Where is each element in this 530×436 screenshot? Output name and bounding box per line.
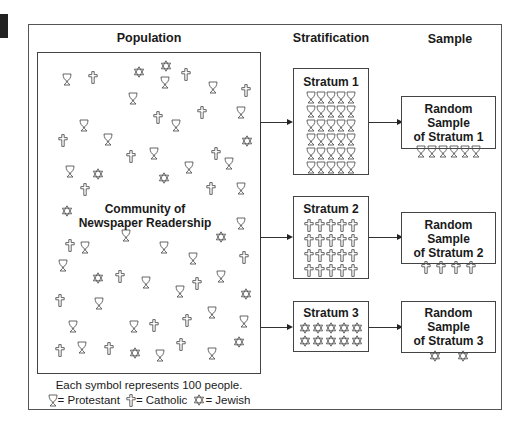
- jewish-star-icon: [92, 272, 104, 284]
- jewish-star-icon: [338, 322, 351, 335]
- sample-2-symbols: [402, 261, 495, 274]
- sample-1-line1: Random Sample: [402, 102, 495, 130]
- catholic-cross-icon: [348, 249, 359, 264]
- catholic-cross-icon: [304, 249, 315, 264]
- sample-1-line2: of Stratum 1: [402, 130, 495, 144]
- catholic-cross-icon: [80, 183, 90, 196]
- catholic-cross-icon: [104, 342, 114, 355]
- population-heading: Population: [37, 31, 261, 45]
- protestant-goblet-icon: [94, 297, 104, 310]
- protestant-goblet-icon: [306, 147, 316, 161]
- sample-2-line2: of Stratum 2: [402, 246, 495, 260]
- catholic-cross-icon: [239, 251, 249, 264]
- protestant-goblet-icon: [316, 133, 326, 147]
- protestant-goblet-icon: [326, 105, 336, 119]
- jewish-star-icon: [325, 322, 338, 335]
- protestant-goblet-icon: [306, 91, 316, 105]
- protestant-goblet-icon: [171, 119, 181, 132]
- catholic-cross-icon: [153, 111, 163, 124]
- catholic-cross-icon: [337, 219, 348, 234]
- catholic-cross-icon: [211, 147, 221, 160]
- catholic-cross-icon: [206, 182, 216, 195]
- branch-connector: [260, 122, 261, 328]
- protestant-goblet-icon: [346, 133, 356, 147]
- protestant-goblet-icon: [103, 133, 113, 146]
- catholic-cross-icon: [315, 234, 326, 249]
- catholic-cross-icon: [348, 234, 359, 249]
- catholic-cross-icon: [315, 249, 326, 264]
- protestant-goblet-icon: [336, 105, 346, 119]
- legend-items: = Protestant= Catholic= Jewish: [37, 393, 261, 407]
- sample-heading: Sample: [400, 32, 500, 46]
- stratum-1-symbols: [294, 91, 368, 175]
- protestant-goblet-icon: [316, 119, 326, 133]
- catholic-cross-icon: [326, 264, 337, 279]
- catholic-cross-icon: [326, 234, 337, 249]
- legend: Each symbol represents 100 people. = Pro…: [37, 378, 261, 407]
- protestant-goblet-icon: [175, 285, 185, 298]
- jewish-star-icon: [457, 350, 469, 362]
- protestant-goblet-icon: [62, 73, 72, 86]
- catholic-cross-icon: [126, 150, 136, 163]
- jewish-star-icon: [351, 322, 364, 335]
- protestant-goblet-icon: [80, 241, 90, 254]
- protestant-goblet-icon: [326, 133, 336, 147]
- protestant-goblet-icon: [128, 92, 138, 105]
- stratum-2-box: Stratum 2: [293, 196, 369, 279]
- protestant-goblet-icon: [216, 270, 226, 283]
- arrow-to-stratum-1: [260, 122, 287, 123]
- sample-1-symbols: [402, 145, 495, 158]
- catholic-cross-icon: [348, 219, 359, 234]
- protestant-goblet-icon: [236, 217, 246, 230]
- protestant-goblet-icon: [460, 145, 470, 158]
- protestant-goblet-icon: [326, 147, 336, 161]
- legend-item-label: = Protestant: [58, 393, 120, 407]
- protestant-goblet-icon: [207, 347, 217, 360]
- jewish-star-icon: [193, 394, 205, 406]
- protestant-goblet-icon: [224, 157, 234, 170]
- catholic-cross-icon: [176, 338, 186, 351]
- protestant-goblet-icon: [141, 276, 151, 289]
- arrow-to-stratum-3: [260, 327, 287, 328]
- jewish-star-icon: [312, 322, 325, 335]
- population-label-line2: Newspaper Readership: [55, 216, 235, 230]
- protestant-goblet-icon: [65, 165, 75, 178]
- catholic-cross-icon: [149, 319, 159, 332]
- legend-scale-note: Each symbol represents 100 people.: [37, 378, 261, 392]
- stratification-heading: Stratification: [288, 31, 374, 45]
- jewish-star-icon: [160, 60, 172, 72]
- protestant-goblet-icon: [346, 105, 356, 119]
- catholic-cross-icon: [348, 264, 359, 279]
- jewish-star-icon: [312, 335, 325, 348]
- catholic-cross-icon: [466, 261, 476, 274]
- catholic-cross-icon: [315, 264, 326, 279]
- stratum-3-title: Stratum 3: [294, 306, 368, 320]
- catholic-cross-icon: [65, 239, 75, 252]
- protestant-goblet-icon: [239, 315, 249, 328]
- catholic-cross-icon: [304, 234, 315, 249]
- protestant-goblet-icon: [159, 241, 169, 254]
- sample-2-line1: Random Sample: [402, 218, 495, 246]
- catholic-cross-icon: [58, 134, 68, 147]
- protestant-goblet-icon: [346, 161, 356, 175]
- jewish-star-icon: [158, 172, 170, 184]
- protestant-goblet-icon: [346, 147, 356, 161]
- sample-3-box: Random Sample of Stratum 3: [401, 301, 496, 353]
- sample-1-box: Random Sample of Stratum 1: [401, 96, 496, 149]
- catholic-cross-icon: [197, 106, 207, 119]
- catholic-cross-icon: [304, 219, 315, 234]
- catholic-cross-icon: [181, 68, 191, 81]
- protestant-goblet-icon: [207, 306, 217, 319]
- protestant-goblet-icon: [346, 119, 356, 133]
- protestant-goblet-icon: [336, 133, 346, 147]
- protestant-goblet-icon: [438, 145, 448, 158]
- protestant-goblet-icon: [58, 259, 68, 272]
- protestant-goblet-icon: [316, 105, 326, 119]
- catholic-cross-icon: [337, 264, 348, 279]
- protestant-goblet-icon: [184, 161, 194, 174]
- catholic-cross-icon: [241, 84, 251, 97]
- protestant-goblet-icon: [155, 349, 165, 362]
- protestant-goblet-icon: [316, 161, 326, 175]
- sample-3-symbols: [402, 350, 495, 362]
- protestant-goblet-icon: [68, 320, 78, 333]
